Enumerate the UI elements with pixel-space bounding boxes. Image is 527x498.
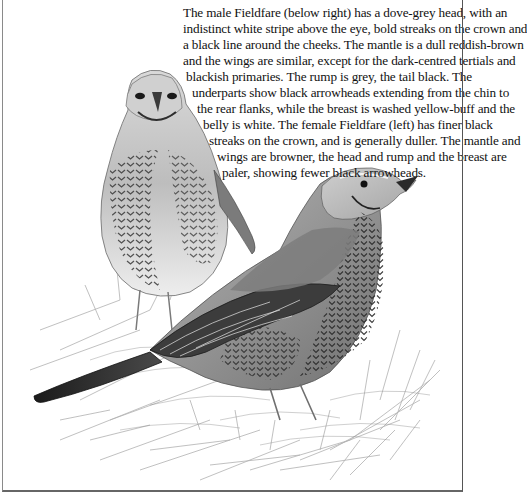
description-line: The male Fieldfare (below right) has a d… [183, 5, 507, 21]
description-line: underparts show black arrowheads extendi… [192, 85, 509, 101]
description-line: indistinct white stripe above the eye, b… [183, 21, 527, 37]
description-line: and the wings are similar, except for th… [183, 53, 516, 69]
description-line: belly is white. The female Fieldfare (le… [203, 117, 493, 133]
description-line: streaks on the crown, and is generally d… [209, 133, 520, 149]
description-line: wings are browner, the head and rump and… [217, 149, 507, 165]
description-line: paler, showing fewer black arrowheads. [222, 165, 426, 181]
description-line: a black line around the cheeks. The mant… [183, 37, 524, 53]
description-line: the rear flanks, while the breast is was… [197, 101, 515, 117]
description-line: blackish primaries. The rump is grey, th… [186, 69, 472, 85]
